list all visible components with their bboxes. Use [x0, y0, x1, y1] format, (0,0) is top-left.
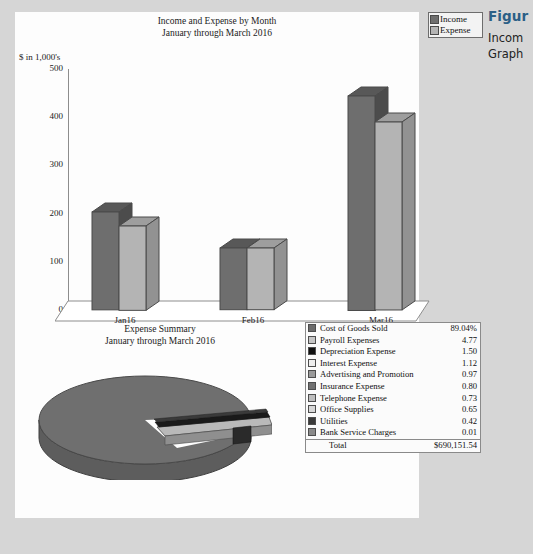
expense-name-cell: Insurance Expense: [319, 381, 427, 393]
caption-line-1: Incom: [488, 31, 533, 46]
pie-svg: [37, 370, 272, 480]
legend-item-expense: Expense: [430, 25, 481, 36]
expense-name-cell: Utilities: [319, 416, 427, 428]
table-row: Office Supplies0.65: [306, 404, 480, 416]
expense-name-cell: Cost of Goods Sold: [319, 323, 427, 335]
expense-swatch-cell: [306, 427, 319, 439]
expense-name-cell: Telephone Expense: [319, 393, 427, 405]
pie-chart-title-line2: January through March 2016: [15, 336, 305, 348]
expense-swatch-cell: [306, 369, 319, 381]
expense-value-cell: 89.04%: [427, 323, 480, 335]
expense-name-cell: Advertising and Promotion: [319, 369, 427, 381]
expense-value-cell: 4.77: [427, 335, 480, 347]
expense-color-swatch: [308, 359, 316, 367]
expense-color-swatch: [308, 405, 316, 413]
expense-swatch-cell: [306, 358, 319, 370]
expense-swatch-cell: [306, 404, 319, 416]
expense-name-cell: Payroll Expenses: [319, 335, 427, 347]
y-axis-tick: 500: [29, 63, 63, 73]
expense-summary-table: Cost of Goods Sold89.04%Payroll Expenses…: [305, 322, 481, 453]
total-label-cell: Total: [319, 439, 427, 451]
table-row: Cost of Goods Sold89.04%: [306, 323, 480, 335]
expense-swatch-cell: [306, 335, 319, 347]
pie-chart-title: Expense Summary January through March 20…: [15, 324, 305, 347]
bar-chart-plot-area: 0100200300400500Jan16Feb16Mar16: [15, 12, 419, 322]
total-swatch-cell: [306, 439, 319, 451]
table-row: Depreciation Expense1.50: [306, 346, 480, 358]
legend-swatch-expense: [430, 26, 439, 35]
expense-color-swatch: [308, 382, 316, 390]
y-axis-line: [68, 69, 69, 310]
expense-name-cell: Bank Service Charges: [319, 427, 427, 439]
expense-value-cell: 0.65: [427, 404, 480, 416]
y-axis-tick: 400: [29, 111, 63, 121]
legend-label-expense: Expense: [440, 25, 471, 36]
expense-swatch-cell: [306, 416, 319, 428]
legend-label-income: Income: [440, 14, 467, 25]
pie-slice-dark-depth: [233, 426, 251, 444]
legend-item-income: Income: [430, 14, 481, 25]
pie-chart: Expense Summary January through March 20…: [15, 322, 305, 518]
table-row: Interest Expense1.12: [306, 358, 480, 370]
expense-swatch-cell: [306, 323, 319, 335]
screenshot-root: Income and Expense by Month January thro…: [0, 0, 533, 554]
expense-value-cell: 0.42: [427, 416, 480, 428]
total-value-cell: $690,151.54: [427, 439, 480, 451]
expense-value-cell: 1.50: [427, 346, 480, 358]
expense-value-cell: 0.80: [427, 381, 480, 393]
expense-value-cell: 0.73: [427, 393, 480, 405]
bar-chart: Income and Expense by Month January thro…: [15, 12, 419, 322]
legend-swatch-income: [430, 15, 439, 24]
expense-name-cell: Office Supplies: [319, 404, 427, 416]
expense-name-cell: Interest Expense: [319, 358, 427, 370]
table-row: Advertising and Promotion0.97: [306, 369, 480, 381]
expense-value-cell: 1.12: [427, 358, 480, 370]
caption-line-2: Graph: [488, 47, 533, 62]
expense-color-swatch: [308, 428, 316, 436]
table-row-total: Total$690,151.54: [306, 439, 480, 451]
y-axis-tick: 100: [29, 256, 63, 266]
figure-caption: Figur Incom Graph: [488, 8, 533, 62]
bar-feb16-expense: [247, 248, 274, 310]
bar-mar16-income: [348, 96, 375, 310]
expense-color-swatch: [308, 417, 316, 425]
bar-jan16-income: [92, 212, 119, 310]
expense-color-swatch: [308, 336, 316, 344]
expense-color-swatch: [308, 370, 316, 378]
expense-swatch-cell: [306, 381, 319, 393]
expense-table: Cost of Goods Sold89.04%Payroll Expenses…: [306, 323, 480, 452]
expense-value-cell: 0.01: [427, 427, 480, 439]
expense-value-cell: 0.97: [427, 369, 480, 381]
pie-chart-title-line1: Expense Summary: [15, 324, 305, 336]
expense-swatch-cell: [306, 346, 319, 358]
pie-chart-graphic: [37, 370, 272, 480]
y-axis-tick: 300: [29, 159, 63, 169]
expense-color-swatch: [308, 394, 316, 402]
expense-name-cell: Depreciation Expense: [319, 346, 427, 358]
expense-color-swatch: [308, 347, 316, 355]
expense-color-swatch: [308, 324, 316, 332]
table-row: Insurance Expense0.80: [306, 381, 480, 393]
table-row: Bank Service Charges0.01: [306, 427, 480, 439]
bar-chart-legend: Income Expense: [428, 12, 483, 38]
expense-swatch-cell: [306, 393, 319, 405]
y-axis-tick: 200: [29, 208, 63, 218]
bar-mar16-expense: [375, 122, 402, 310]
bar-jan16-expense: [119, 226, 146, 310]
table-row: Payroll Expenses4.77: [306, 335, 480, 347]
figure-label: Figur: [488, 8, 533, 24]
bar-feb16-income: [220, 248, 247, 310]
table-row: Telephone Expense0.73: [306, 393, 480, 405]
table-row: Utilities0.42: [306, 416, 480, 428]
